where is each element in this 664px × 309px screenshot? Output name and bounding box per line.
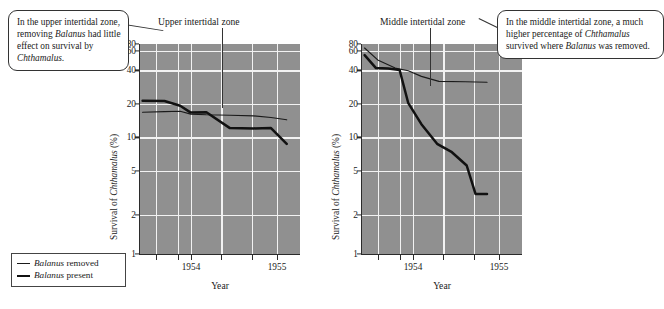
chart-upper-series [140, 44, 300, 254]
middle-zone-callout-text: In the middle intertidal zone, a much hi… [506, 17, 650, 51]
ytick-mark-80 [357, 43, 361, 44]
xtick-mark-6 [277, 255, 278, 260]
xtick-mark-2 [178, 255, 179, 260]
xtick-label-1954: 1954 [182, 262, 201, 272]
chart-upper-title-stem [222, 28, 223, 108]
ytick-mark-40 [135, 70, 139, 71]
chart-upper-x-axis [139, 254, 300, 255]
xtick-label-1955: 1955 [268, 262, 287, 272]
series-balanus-present-middle [365, 55, 487, 194]
ytick-label-40: 40 [336, 65, 358, 75]
chart-upper-y-axis-title: Survival of Chthamalus (%) [109, 134, 119, 240]
xtick-mark-3 [191, 255, 192, 260]
chart-middle-x-axis [361, 254, 522, 255]
ytick-mark-10 [357, 137, 361, 138]
xtick-mark-5 [252, 255, 253, 260]
ytick-label-20: 20 [114, 99, 136, 109]
ytick-mark-2 [135, 214, 139, 215]
chart-upper-plot-area [140, 44, 300, 254]
ytick-mark-2 [357, 214, 361, 215]
series-balanus-present-upper [143, 101, 287, 144]
xtick-mark-5 [474, 255, 475, 260]
chart-middle-series [362, 44, 522, 254]
xtick-label-1955: 1955 [490, 262, 509, 272]
ytick-mark-1 [357, 253, 361, 254]
ytick-mark-5 [135, 170, 139, 171]
chart-middle-x-axis-title: Year [433, 280, 451, 291]
xtick-mark-4 [221, 255, 222, 260]
ytick-mark-60 [357, 50, 361, 51]
xtick-mark-4 [443, 255, 444, 260]
ytick-mark-5 [357, 170, 361, 171]
xtick-mark-3 [413, 255, 414, 260]
ytick-mark-40 [357, 70, 361, 71]
legend-line-thin-icon [17, 263, 30, 264]
legend-label-balanus-present: Balanus present [34, 269, 93, 281]
middle-zone-callout: In the middle intertidal zone, a much hi… [497, 10, 664, 59]
series-balanus-removed-middle [365, 48, 487, 82]
xtick-label-1954: 1954 [404, 262, 423, 272]
chart-middle-title: Middle intertidal zone [380, 16, 465, 27]
series-legend: Balanus removed Balanus present [11, 253, 126, 287]
ytick-mark-20 [135, 103, 139, 104]
chart-middle-y-axis-title: Survival of Chthamalus (%) [331, 134, 341, 240]
legend-item-balanus-removed: Balanus removed [17, 257, 120, 269]
ytick-mark-60 [135, 50, 139, 51]
ytick-label-60: 60 [336, 46, 358, 56]
chart-upper-title: Upper intertidal zone [158, 16, 240, 27]
chart-middle-y-axis [361, 44, 362, 255]
xtick-mark-2 [400, 255, 401, 260]
xtick-mark-1 [156, 255, 157, 260]
legend-label-balanus-removed: Balanus removed [34, 257, 99, 269]
chart-upper-y-axis [139, 44, 140, 255]
legend-line-thick-icon [17, 275, 30, 277]
chart-upper-intertidal: Upper intertidal zone [96, 0, 326, 309]
upper-zone-callout-text: In the upper intertidal zone, removing B… [17, 17, 121, 63]
ytick-mark-10 [135, 137, 139, 138]
ytick-label-1: 1 [336, 249, 358, 259]
chart-middle-plot-area [362, 44, 522, 254]
chart-middle-title-stem [430, 28, 431, 86]
ytick-mark-80 [135, 43, 139, 44]
upper-zone-callout: In the upper intertidal zone, removing B… [8, 10, 129, 71]
chart-upper-x-axis-title: Year [211, 280, 229, 291]
xtick-mark-1 [378, 255, 379, 260]
ytick-mark-20 [357, 103, 361, 104]
xtick-mark-6 [499, 255, 500, 260]
ytick-label-20: 20 [336, 99, 358, 109]
legend-item-balanus-present: Balanus present [17, 269, 120, 281]
ytick-mark-1 [135, 253, 139, 254]
